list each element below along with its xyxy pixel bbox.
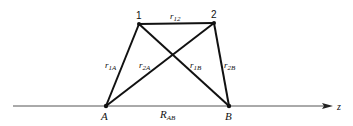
edge-RAB-label: RAB <box>159 108 176 122</box>
point-1 <box>137 22 141 26</box>
point-A-label: A <box>100 110 108 122</box>
edge-r2B-label: r2B <box>224 60 236 72</box>
point-B-label: B <box>225 110 232 122</box>
edge-r2A-label: r2A <box>139 60 151 72</box>
z-axis-label: z <box>336 101 341 112</box>
point-2-label: 2 <box>211 9 217 20</box>
point-1-label: 1 <box>136 10 142 21</box>
diatomic-coordinate-diagram: z 1 2 A B r12 r1A r2A r1B r2B RAB <box>0 0 353 126</box>
edge-r12 <box>139 23 214 24</box>
edge-r1B-label: r1B <box>190 60 202 72</box>
point-A <box>104 104 108 108</box>
point-2 <box>212 21 216 25</box>
edge-r1A-label: r1A <box>105 60 117 72</box>
edge-r12-label: r12 <box>170 11 181 23</box>
point-B <box>227 104 231 108</box>
